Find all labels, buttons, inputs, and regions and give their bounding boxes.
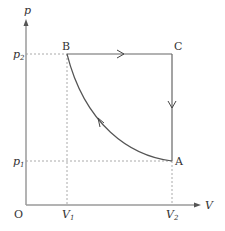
v2-tick-label: V2	[166, 208, 179, 222]
y-axis-label: p	[24, 4, 31, 17]
point-c-label: C	[174, 40, 182, 53]
point-a-label: A	[174, 155, 184, 168]
point-b-label: B	[62, 40, 70, 53]
process-ab-curve	[67, 54, 172, 161]
pv-diagram: B C A p V O p2 p1 V1 V2	[0, 0, 225, 231]
x-axis-label: V	[205, 199, 214, 212]
p1-tick-label: p1	[13, 155, 25, 169]
y-axis-arrow-icon	[24, 19, 29, 26]
origin-label: O	[14, 208, 23, 221]
p2-tick-label: p2	[13, 48, 25, 62]
v1-tick-label: V1	[62, 208, 74, 222]
x-axis-arrow-icon	[194, 203, 201, 208]
